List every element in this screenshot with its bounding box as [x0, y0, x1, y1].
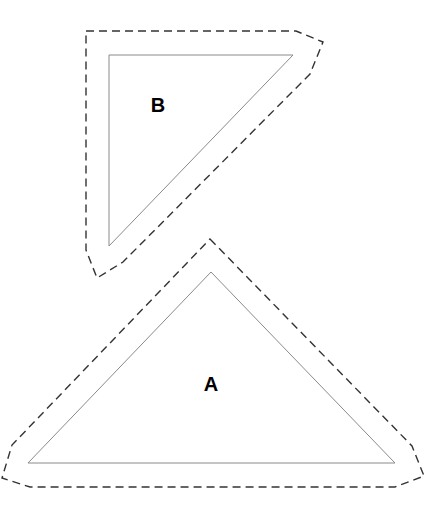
shape-b-offset-outline — [86, 31, 323, 278]
shape-a: A — [2, 239, 424, 487]
shape-a-triangle — [28, 272, 395, 463]
shape-a-label: A — [204, 373, 218, 395]
shape-a-offset-outline — [2, 239, 424, 487]
diagram-canvas: B A — [0, 0, 447, 520]
shape-b: B — [86, 31, 323, 278]
shape-b-label: B — [151, 94, 165, 116]
shape-b-triangle — [109, 55, 293, 246]
